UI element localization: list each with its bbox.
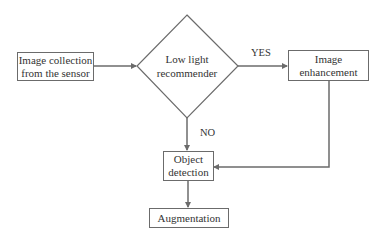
node-enhancement-line2: enhancement xyxy=(299,66,357,79)
node-detection-line2: detection xyxy=(168,166,208,179)
node-low-light-recommender: Low light recommender xyxy=(147,52,227,80)
node-recommender-line2: recommender xyxy=(147,66,227,80)
node-enhancement-line1: Image xyxy=(299,53,357,66)
edge-label-no: NO xyxy=(200,127,215,138)
flowchart-connectors xyxy=(0,0,382,237)
node-augmentation: Augmentation xyxy=(149,208,229,228)
node-image-collection: Image collection from the sensor xyxy=(17,52,94,81)
node-image-collection-line2: from the sensor xyxy=(19,67,93,80)
node-augmentation-label: Augmentation xyxy=(158,212,221,225)
arrow-enhancement-to-detection xyxy=(214,81,329,167)
node-object-detection: Object detection xyxy=(163,151,214,181)
node-image-collection-line1: Image collection xyxy=(19,54,93,67)
node-image-enhancement: Image enhancement xyxy=(288,50,369,81)
node-recommender-line1: Low light xyxy=(147,52,227,66)
edge-label-yes: YES xyxy=(251,47,271,58)
node-detection-line1: Object xyxy=(168,153,208,166)
